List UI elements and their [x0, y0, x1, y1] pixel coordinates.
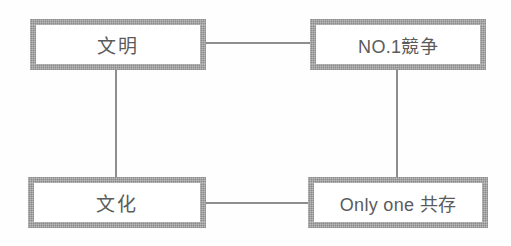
edge-bunka-to-onlyone — [205, 202, 310, 204]
node-bunka-label: 文化 — [96, 189, 138, 216]
edge-no1kyoso-to-onlyone — [396, 68, 398, 180]
edge-bunmei-to-no1kyoso — [205, 42, 312, 44]
node-onlyone-label: Only one 共存 — [340, 190, 456, 216]
diagram-canvas: 文明 NO.1競争 文化 Only one 共存 — [0, 0, 511, 246]
node-bunmei-label: 文明 — [97, 31, 139, 58]
node-no1kyoso: NO.1競争 — [310, 19, 486, 70]
node-bunka: 文化 — [28, 177, 206, 228]
node-no1kyoso-label: NO.1競争 — [358, 32, 438, 58]
node-bunmei: 文明 — [30, 19, 206, 70]
edge-bunmei-to-bunka — [115, 68, 117, 180]
node-onlyone: Only one 共存 — [308, 177, 488, 228]
